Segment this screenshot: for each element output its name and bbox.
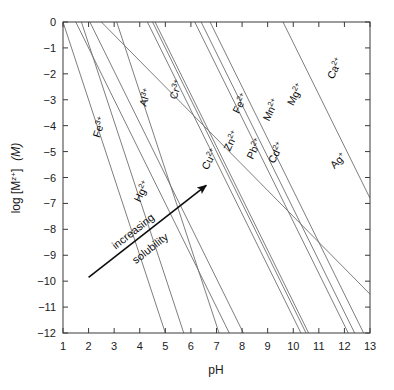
- chart-canvas: 12345678910111213 0−1−2−3−4−5−6−7−8−9−10…: [0, 0, 394, 390]
- y-axis-title-sup: z+: [9, 172, 18, 181]
- series-label-hg2+: Hg2+: [130, 178, 152, 204]
- y-tick-label--12: −12: [37, 327, 56, 339]
- y-tick-label--3: −3: [43, 94, 56, 106]
- series-label-fe2+: Fe2+: [229, 90, 250, 115]
- series-label-superscript: 3+: [138, 86, 149, 98]
- x-tick-label-9: 9: [265, 340, 271, 352]
- x-tick-label-12: 12: [338, 340, 350, 352]
- y-axis-title-lead: log [M: [9, 181, 23, 214]
- x-tick-label-8: 8: [239, 340, 245, 352]
- x-tick-label-13: 13: [364, 340, 376, 352]
- data-lines-group: [63, 0, 370, 333]
- data-line-pb2+: [155, 22, 309, 333]
- x-axis-title: pH: [208, 363, 223, 377]
- svg-text:log [Mz+](M): log [Mz+](M): [9, 143, 23, 214]
- series-label-base: Hg: [131, 186, 148, 203]
- y-axis-title-close: ]: [9, 169, 23, 172]
- y-tick-label--2: −2: [43, 68, 56, 80]
- series-label-cu2+: Cu2+: [198, 145, 220, 171]
- x-tick-label-4: 4: [137, 340, 143, 352]
- increasing-solubility-annotation: increasingsolubility: [89, 185, 207, 277]
- solubility-diagram-figure: 12345678910111213 0−1−2−3−4−5−6−7−8−9−10…: [0, 0, 394, 390]
- series-label-base: Pb: [244, 144, 261, 161]
- data-line-cr3+: [117, 22, 219, 333]
- data-line-cu2+: [90, 22, 244, 333]
- data-line-mn2+: [195, 22, 349, 333]
- y-tick-label--11: −11: [38, 301, 56, 313]
- x-tick-label-3: 3: [111, 340, 117, 352]
- series-label-base: Cu: [199, 154, 216, 171]
- series-label-fe3+: Fe3+: [89, 114, 108, 138]
- series-label-base: Mg: [284, 89, 301, 108]
- series-label-base: Ca: [324, 63, 341, 80]
- plot-frame: [63, 22, 370, 333]
- y-tick-label--7: −7: [43, 197, 56, 209]
- x-tick-label-10: 10: [287, 340, 299, 352]
- data-line-fe3+: [63, 22, 165, 333]
- series-label-superscript: 3+: [93, 114, 104, 126]
- x-tick-label-7: 7: [213, 340, 219, 352]
- series-label-mg2+: Mg2+: [283, 80, 305, 107]
- y-tick-label--8: −8: [43, 223, 56, 235]
- y-axis-title: log [Mz+](M): [9, 143, 23, 214]
- series-label-ag+: Ag+: [327, 149, 349, 171]
- y-tick-label--6: −6: [43, 172, 56, 184]
- data-line-al3+: [81, 22, 183, 333]
- x-tick-label-2: 2: [86, 340, 92, 352]
- y-tick-label-0: 0: [50, 16, 56, 28]
- series-label-superscript: 3+: [169, 77, 180, 89]
- data-line-ca2+: [283, 22, 370, 198]
- series-label-base: Mn: [260, 104, 277, 123]
- series-label-al3+: Al3+: [135, 86, 153, 108]
- y-axis-ticks: 0−1−2−3−4−5−6−7−8−9−10−11−12: [37, 16, 370, 339]
- x-tick-label-11: 11: [313, 340, 324, 352]
- data-line-zn2+: [153, 22, 307, 333]
- y-tick-label--9: −9: [43, 249, 56, 261]
- y-tick-label--5: −5: [43, 146, 56, 158]
- x-tick-label-5: 5: [162, 340, 168, 352]
- series-label-zn2+: Zn2+: [220, 128, 241, 153]
- y-tick-label--10: −10: [37, 275, 56, 287]
- series-label-cd2+: Cd2+: [264, 139, 286, 165]
- y-axis-title-units: (M): [9, 143, 23, 161]
- series-labels-group: Fe3+Al3+Cr3+Hg2+Cu2+Fe2+Zn2+Pb2+Mn2+Cd2+…: [89, 55, 349, 204]
- series-label-mn2+: Mn2+: [259, 96, 281, 123]
- data-line-hg2+: [76, 22, 230, 333]
- series-label-ca2+: Ca2+: [323, 55, 345, 81]
- y-tick-label--4: −4: [43, 120, 56, 132]
- increasing-solubility-arrow-icon: [89, 185, 207, 277]
- x-tick-label-6: 6: [188, 340, 194, 352]
- y-tick-label--1: −1: [43, 42, 56, 54]
- x-tick-label-1: 1: [60, 340, 66, 352]
